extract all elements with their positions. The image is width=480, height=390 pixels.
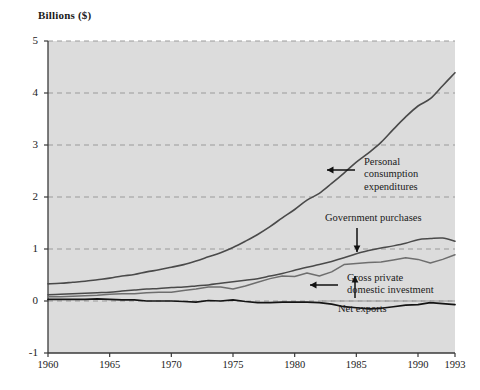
y-axis-tick-label: 1 <box>16 242 38 254</box>
x-axis-tick-label: 1985 <box>336 359 376 370</box>
y-axis-tick-label: 3 <box>16 138 38 150</box>
x-axis-tick-label: 1965 <box>90 359 130 370</box>
x-axis-tick-label: 1960 <box>28 359 68 370</box>
annotation-line: domestic investment <box>347 284 434 296</box>
chart-container: Billions ($) 543210-1 196019651970197519… <box>0 0 480 390</box>
y-axis-tick-label: 5 <box>16 34 38 46</box>
annotation-gpdi: Gross privatedomestic investment <box>347 272 434 297</box>
x-axis-tick-label: 1975 <box>213 359 253 370</box>
annotation-line: consumption <box>364 168 418 180</box>
annotation-netexports: Net exports <box>338 303 387 315</box>
annotation-line: expenditures <box>364 181 418 193</box>
x-axis-tick-label: 1980 <box>275 359 315 370</box>
y-axis-tick-label: 0 <box>16 294 38 306</box>
y-axis-tick-label: 2 <box>16 190 38 202</box>
x-axis-tick-label: 1990 <box>398 359 438 370</box>
annotation-pce: Personalconsumptionexpenditures <box>364 156 418 193</box>
x-axis-tick-label: 1970 <box>151 359 191 370</box>
annotation-line: Government purchases <box>325 212 422 224</box>
y-axis-tick-label: -1 <box>16 346 38 358</box>
annotation-line: Net exports <box>338 303 387 315</box>
y-axis-tick-label: 4 <box>16 86 38 98</box>
annotation-line: Gross private <box>347 272 434 284</box>
line-chart-plot <box>0 0 480 390</box>
x-axis-tick-label: 1993 <box>435 359 475 370</box>
annotation-line: Personal <box>364 156 418 168</box>
annotation-gov: Government purchases <box>325 212 422 224</box>
